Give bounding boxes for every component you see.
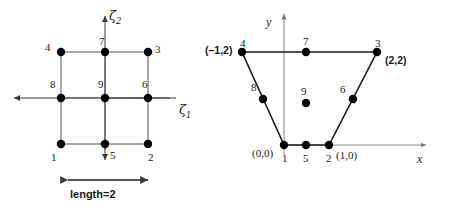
right-node-label-2: 2 [326, 153, 332, 164]
left-node-7 [101, 48, 109, 56]
right-node-9 [302, 99, 310, 107]
right-node-label-4: 4 [240, 38, 246, 49]
right-node-label-8: 8 [251, 82, 257, 93]
left-node-label-9: 9 [98, 79, 104, 90]
left-node-label-7: 7 [99, 36, 105, 47]
zeta1-axis-label: ζ1 [179, 103, 191, 119]
left-node-1 [57, 140, 65, 148]
right-node-label-7: 7 [303, 36, 309, 47]
right-node-label-1: 1 [282, 153, 288, 164]
left-node-2 [144, 140, 152, 148]
right-node-5 [302, 141, 310, 149]
y-axis-label: y [266, 16, 271, 28]
zeta1-subscript: 1 [186, 110, 191, 120]
right-node-label-9: 9 [301, 86, 307, 97]
zeta1-glyph: ζ [179, 102, 186, 117]
left-node-label-5: 5 [110, 150, 116, 161]
right-node-coord-2: (1,0) [336, 150, 357, 161]
left-node-label-1: 1 [51, 152, 57, 163]
right-node-4 [238, 48, 246, 56]
left-node-8 [57, 94, 65, 102]
left-node-6 [144, 94, 152, 102]
right-node-label-5: 5 [303, 153, 309, 164]
right-node-8 [259, 95, 267, 103]
left-axes [14, 16, 176, 160]
length-label: length=2 [70, 189, 116, 200]
left-node-label-2: 2 [148, 152, 154, 163]
left-node-label-6: 6 [142, 79, 148, 90]
right-node-coord-4: (–1,2) [205, 45, 232, 56]
right-node-6 [349, 95, 357, 103]
right-node-3 [373, 48, 381, 56]
left-node-5 [101, 140, 109, 148]
left-node-label-4: 4 [45, 42, 51, 53]
left-node-3 [144, 48, 152, 56]
right-node-label-3: 3 [375, 38, 381, 49]
right-node-7 [302, 48, 310, 56]
figure-canvas: 4 7 3 8 9 6 1 5 2 ζ2 ζ1 length=2 y x 4 (… [0, 0, 453, 213]
right-node-1 [280, 141, 288, 149]
right-node-coord-3: (2,2) [385, 55, 407, 66]
zeta2-subscript: 2 [116, 16, 121, 26]
right-nodes [238, 48, 381, 149]
right-node-2 [325, 141, 333, 149]
right-node-coord-1: (0,0) [252, 148, 273, 159]
left-node-label-8: 8 [50, 79, 56, 90]
right-node-label-6: 6 [340, 84, 346, 95]
zeta2-glyph: ζ [109, 8, 116, 23]
zeta2-axis-label: ζ2 [109, 9, 121, 25]
x-axis-label: x [417, 153, 422, 165]
left-node-4 [57, 48, 65, 56]
diagram-vector-layer [0, 0, 453, 213]
left-node-label-3: 3 [155, 44, 161, 55]
left-node-9 [101, 94, 109, 102]
